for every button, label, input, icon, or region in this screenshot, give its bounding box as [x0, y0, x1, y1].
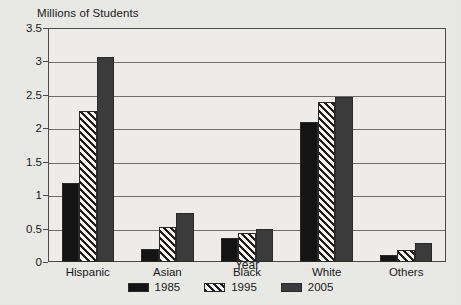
- y-axis-tick-label: 1.5: [26, 156, 42, 168]
- x-axis-tick-label: Hispanic: [66, 266, 110, 278]
- bar-group: [141, 28, 194, 262]
- bar: [176, 213, 194, 262]
- y-axis-title: Millions of Students: [37, 7, 139, 19]
- y-axis-tick-label: 0: [36, 256, 42, 268]
- bar: [335, 97, 353, 262]
- bar: [300, 122, 318, 262]
- x-axis-tick-label: Others: [389, 266, 424, 278]
- bars-layer: [48, 28, 446, 262]
- bar: [79, 111, 97, 262]
- x-axis-tick-label: Black: [233, 266, 261, 278]
- legend-entry[interactable]: 1995: [204, 281, 257, 293]
- solid-gray-swatch: [281, 283, 302, 292]
- bar-group: [300, 28, 353, 262]
- y-axis-tick-label: 3: [36, 55, 42, 67]
- bar: [159, 227, 177, 262]
- legend-entry[interactable]: 1985: [128, 281, 181, 293]
- y-axis: 00.511.522.533.5: [0, 0, 48, 305]
- hatched-swatch: [204, 283, 225, 292]
- grouped-bar-chart: Millions of Students 00.511.522.533.5 Ye…: [0, 0, 461, 305]
- solid-black-swatch: [128, 283, 149, 292]
- y-axis-tick-label: 2: [36, 122, 42, 134]
- y-axis-tick-label: 1: [36, 189, 42, 201]
- legend-label: 1985: [155, 281, 181, 293]
- y-axis-tick-label: 0.5: [26, 223, 42, 235]
- x-axis-tick-label: Asian: [153, 266, 182, 278]
- legend-label: 2005: [308, 281, 334, 293]
- bar-group: [62, 28, 115, 262]
- bar: [380, 255, 398, 262]
- chart-legend: 198519952005: [0, 281, 461, 293]
- bar-group: [380, 28, 433, 262]
- bar: [397, 250, 415, 262]
- bar: [415, 243, 433, 262]
- bar: [318, 102, 336, 262]
- bar: [62, 183, 80, 262]
- legend-entry[interactable]: 2005: [281, 281, 334, 293]
- legend-label: 1995: [231, 281, 257, 293]
- y-axis-tick-mark: [43, 262, 48, 263]
- bar-group: [221, 28, 274, 262]
- y-axis-tick-label: 2.5: [26, 89, 42, 101]
- y-axis-tick-label: 3.5: [26, 22, 42, 34]
- bar: [141, 249, 159, 262]
- x-axis-tick-label: White: [312, 266, 341, 278]
- bar: [97, 57, 115, 262]
